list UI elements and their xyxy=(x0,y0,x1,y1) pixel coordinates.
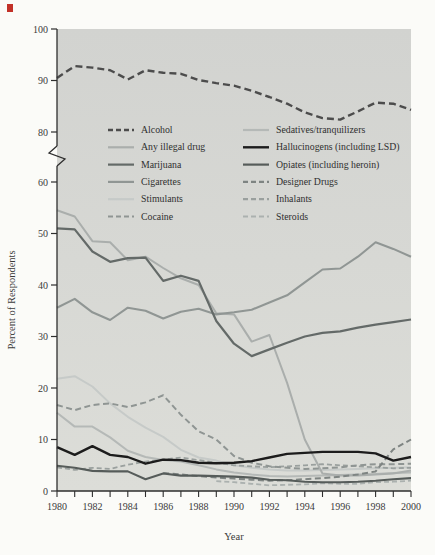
legend-label-any_illegal_drug: Any illegal drug xyxy=(141,141,205,152)
y-tick-label: 20 xyxy=(38,383,48,394)
x-tick-label: 1990 xyxy=(224,501,244,512)
y-tick-label: 10 xyxy=(38,434,48,445)
x-tick-label: 1994 xyxy=(295,501,315,512)
y-tick-label: 80 xyxy=(38,127,48,138)
x-tick-label: 1998 xyxy=(366,501,386,512)
x-tick-label: 1988 xyxy=(189,501,209,512)
x-tick-label: 1980 xyxy=(47,501,67,512)
legend-label-inhalants: Inhalants xyxy=(276,193,312,204)
y-tick-label: 40 xyxy=(38,280,48,291)
scan-artifact-red-mark xyxy=(7,4,13,12)
plot-background xyxy=(57,29,411,491)
x-tick-label: 2000 xyxy=(401,501,421,512)
y-tick-label: 50 xyxy=(38,228,48,239)
legend-label-marijuana: Marijuana xyxy=(141,159,182,170)
legend-label-alcohol: Alcohol xyxy=(141,124,173,135)
y-tick-label: 100 xyxy=(33,24,48,35)
legend-label-sedatives: Sedatives/tranquilizers xyxy=(276,124,365,135)
legend-label-cigarettes: Cigarettes xyxy=(141,176,181,187)
legend-label-cocaine: Cocaine xyxy=(141,211,174,222)
y-tick-label: 30 xyxy=(38,331,48,342)
x-tick-label: 1982 xyxy=(82,501,102,512)
legend-label-steroids: Steroids xyxy=(276,211,308,222)
x-tick-label: 1984 xyxy=(118,501,138,512)
x-axis-title: Year xyxy=(224,531,244,542)
y-tick-label: 90 xyxy=(38,75,48,86)
line-chart-figure: 0102030405060809010019801982198419861988… xyxy=(0,0,435,555)
y-tick-label: 60 xyxy=(38,177,48,188)
y-axis-title: Percent of Respondents xyxy=(6,250,17,349)
drug-use-trends-chart: 0102030405060809010019801982198419861988… xyxy=(0,0,435,555)
legend-label-designer_drugs: Designer Drugs xyxy=(276,176,338,187)
x-tick-label: 1986 xyxy=(153,501,173,512)
legend-label-stimulants: Stimulants xyxy=(141,193,183,204)
x-tick-label: 1996 xyxy=(330,501,350,512)
legend-label-opiates: Opiates (including heroin) xyxy=(276,159,379,171)
x-tick-label: 1992 xyxy=(259,501,279,512)
legend-label-hallucinogens: Hallucinogens (including LSD) xyxy=(276,141,400,153)
y-tick-label: 0 xyxy=(43,486,48,497)
